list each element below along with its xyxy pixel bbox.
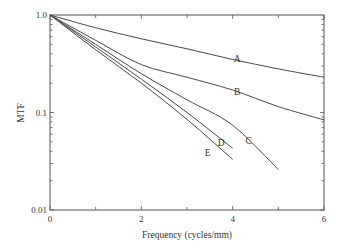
x-tick-label: 4: [230, 214, 235, 224]
curve-e: [50, 15, 233, 159]
x-tick-label: 0: [48, 214, 53, 224]
curve-label-c: C: [245, 136, 251, 146]
x-tick-label: 2: [139, 214, 144, 224]
y-tick-label: 0.01: [31, 205, 47, 215]
y-tick-label: 0.1: [36, 108, 47, 118]
tick-labels: 02460.010.11.0: [31, 10, 327, 224]
y-tick-label: 1.0: [36, 10, 48, 20]
curve-c: [50, 15, 278, 170]
mtf-chart: ABCDE 02460.010.11.0 Frequency (cycles/m…: [0, 0, 344, 252]
curves: ABCDE: [50, 15, 324, 170]
curve-label-b: B: [234, 87, 240, 97]
y-axis-title: MTF: [16, 103, 26, 123]
curve-d: [50, 15, 233, 148]
curve-label-e: E: [205, 148, 211, 158]
x-axis-title: Frequency (cycles/mm): [142, 230, 232, 241]
curve-b: [50, 15, 324, 120]
x-tick-label: 6: [322, 214, 327, 224]
curve-label-a: A: [234, 54, 241, 64]
